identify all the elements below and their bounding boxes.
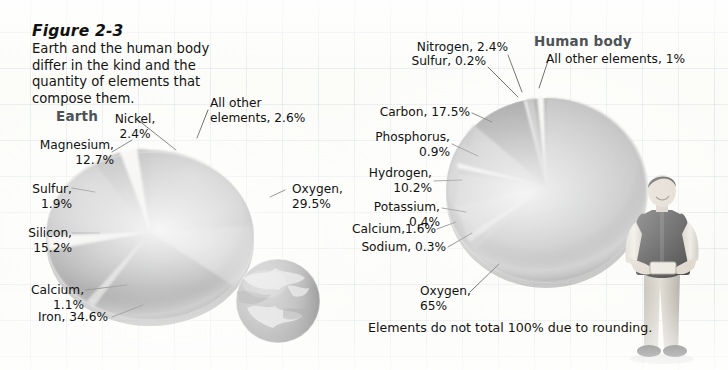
student-photo [614,166,710,366]
figure-caption-block: Figure 2-3 Earth and the human body diff… [32,22,247,107]
figure-panel: Figure 2-3 Earth and the human body diff… [0,0,728,370]
earth-globe-photo [235,258,321,344]
figure-number: Figure 2-3 [32,22,247,40]
earth-label-sulfur: Sulfur, 1.9% [10,182,72,211]
earth-label-all-other-elements: All other elements, 2.6% [210,96,330,125]
earth-label-nickel: Nickel, 2.4% [105,112,165,141]
earth-label-magnesium: Magnesium, 12.7% [28,138,114,167]
body-label-calcium: Calcium,1.6% [344,222,436,237]
body-label-hydrogen: Hydrogen, 10.2% [356,166,432,195]
human-body-chart-heading: Human body [534,33,632,49]
body-label-carbon: Carbon, 17.5% [360,105,470,120]
earth-label-iron: Iron, 34.6% [8,310,108,325]
earth-chart-heading: Earth [56,108,98,124]
body-label-oxygen: Oxygen, 65% [420,284,490,313]
body-label-sulfur: Sulfur, 0.2% [398,54,486,69]
body-label-all-other-elements: All other elements, 1% [546,52,706,67]
rounding-note: Elements do not total 100% due to roundi… [368,320,652,335]
earth-label-calcium: Calcium, 1.1% [8,283,84,312]
earth-label-silicon: Silicon, 15.2% [6,226,72,255]
body-label-phosphorus: Phosphorus, 0.9% [358,130,450,159]
body-label-nitrogen: Nitrogen, 2.4% [398,40,508,55]
body-label-sodium: Sodium, 0.3% [346,240,446,255]
